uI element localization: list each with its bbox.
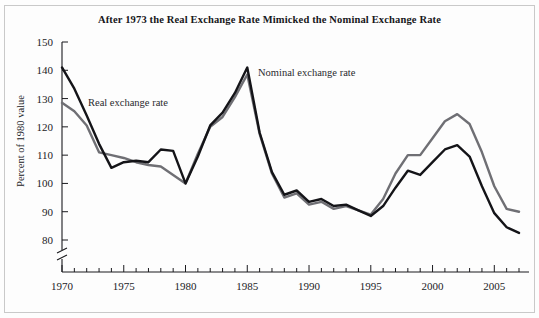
y-axis-tick-label: 120	[37, 121, 54, 133]
nominal-series-annotation: Nominal exchange rate	[258, 67, 356, 78]
y-axis-tick-label: 100	[37, 177, 54, 189]
y-axis-tick-label: 130	[37, 93, 54, 105]
y-axis-tick-label: 150	[37, 36, 54, 48]
chart-figure: After 1973 the Real Exchange Rate Mimick…	[0, 0, 539, 318]
x-axis-tick-label: 2005	[483, 280, 506, 292]
series-line-nominal-exchange-rate	[62, 67, 519, 232]
y-axis-tick-label: 110	[37, 149, 54, 161]
real-series-annotation: Real exchange rate	[88, 97, 168, 108]
y-axis-tick-label: 90	[42, 206, 54, 218]
x-axis-tick-label: 1975	[113, 280, 136, 292]
chart-plot-area: 8090100110120130140150197019751980198519…	[0, 0, 539, 318]
x-axis-tick-label: 1970	[51, 280, 74, 292]
y-axis-tick-label: 140	[37, 64, 54, 76]
x-axis-tick-label: 1980	[175, 280, 198, 292]
x-axis-tick-label: 1995	[360, 280, 383, 292]
y-axis-title: Percent of 1980 value	[15, 95, 26, 187]
y-axis-tick-label: 80	[42, 234, 54, 246]
x-axis-tick-label: 1985	[236, 280, 259, 292]
x-axis-tick-label: 2000	[422, 280, 445, 292]
x-axis-tick-label: 1990	[298, 280, 321, 292]
